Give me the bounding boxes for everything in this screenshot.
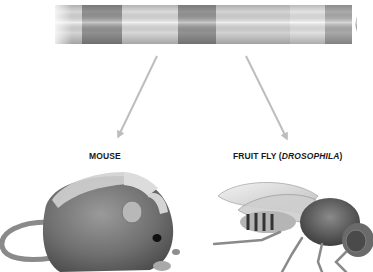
gene-homology-diagram: MOUSE FRUIT FLY (DROSOPHILA): [0, 0, 373, 272]
fruit-fly-illustration: [214, 182, 373, 272]
mouse-nose: [172, 249, 180, 255]
fly-compound-eye: [346, 230, 366, 252]
mouse-ear: [122, 201, 142, 223]
arrow-to-mouse: [119, 56, 157, 135]
mouse-illustration: [2, 172, 180, 272]
mouse-label: MOUSE: [89, 151, 121, 161]
homology-arrows: [119, 56, 286, 137]
fruit-fly-label-prefix: FRUIT FLY (: [233, 151, 282, 161]
fruit-fly-label: FRUIT FLY (DROSOPHILA): [233, 151, 342, 161]
mouse-eye: [153, 234, 162, 242]
chromosome: [50, 3, 360, 46]
diagram-canvas: [0, 0, 373, 272]
arrow-to-fruit-fly: [246, 56, 286, 137]
mouse-paw: [153, 261, 171, 271]
chromosome-fade: [50, 3, 72, 46]
fruit-fly-genus: DROSOPHILA: [282, 151, 340, 161]
mouse-label-text: MOUSE: [89, 151, 121, 161]
fruit-fly-label-suffix: ): [339, 151, 342, 161]
chromosome-shading: [55, 5, 357, 44]
